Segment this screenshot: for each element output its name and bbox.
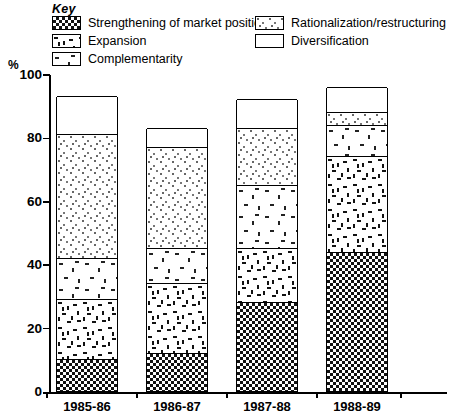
bar-segment-1986-87-rationalization-restructuring — [147, 147, 207, 248]
bar-1987-88 — [236, 100, 298, 392]
bar-segment-1988-89-diversification — [327, 87, 387, 112]
bar-segment-1986-87-expansion — [147, 283, 207, 353]
x-category-label-1985-86: 1985-86 — [63, 399, 111, 414]
bar-1985-86 — [56, 97, 118, 392]
bar-segment-1986-87-diversification — [147, 128, 207, 147]
bar-segment-1987-88-rationalization-restructuring — [237, 128, 297, 185]
bar-segment-1987-88-strengthening-of-market-position — [237, 302, 297, 391]
x-category-label-1988-89: 1988-89 — [333, 399, 381, 414]
bar-1988-89 — [326, 88, 388, 392]
x-tick-mark-1 — [136, 392, 138, 398]
y-tick-label-20: 20 — [8, 321, 42, 336]
y-tick-mark-80 — [43, 138, 50, 140]
bar-segment-1987-88-complementarity — [237, 185, 297, 248]
y-tick-label-60: 60 — [8, 194, 42, 209]
bar-segment-1985-86-expansion — [57, 299, 117, 359]
x-tick-mark-end — [400, 392, 402, 398]
bar-segment-1985-86-diversification — [57, 96, 117, 134]
y-tick-mark-20 — [43, 328, 50, 330]
x-tick-mark-3 — [316, 392, 318, 398]
bar-segment-1988-89-expansion — [327, 156, 387, 251]
y-tick-label-100: 100 — [8, 67, 42, 82]
y-tick-mark-40 — [43, 264, 50, 266]
stacked-bar-chart: % 020406080100 1985-861986-871987-881988… — [0, 0, 449, 418]
bar-segment-1986-87-complementarity — [147, 248, 207, 283]
x-tick-mark-2 — [226, 392, 228, 398]
bar-segment-1986-87-strengthening-of-market-position — [147, 353, 207, 391]
bar-segment-1985-86-rationalization-restructuring — [57, 134, 117, 258]
y-tick-label-0: 0 — [8, 384, 42, 399]
bar-1986-87 — [146, 129, 208, 392]
bar-segment-1988-89-rationalization-restructuring — [327, 112, 387, 125]
y-tick-mark-100 — [43, 74, 50, 76]
y-axis-labels: 020406080100 — [4, 0, 42, 418]
y-tick-mark-60 — [43, 201, 50, 203]
bar-segment-1985-86-complementarity — [57, 258, 117, 299]
x-category-label-1986-87: 1986-87 — [153, 399, 201, 414]
bar-segment-1985-86-strengthening-of-market-position — [57, 359, 117, 391]
x-axis-line — [43, 392, 447, 394]
bar-segment-1987-88-diversification — [237, 99, 297, 128]
y-tick-label-80: 80 — [8, 130, 42, 145]
x-tick-mark-0 — [46, 392, 48, 398]
y-axis-line — [49, 75, 51, 393]
x-category-label-1987-88: 1987-88 — [243, 399, 291, 414]
y-tick-label-40: 40 — [8, 257, 42, 272]
bar-segment-1987-88-expansion — [237, 248, 297, 302]
bar-segment-1988-89-complementarity — [327, 125, 387, 157]
bar-segment-1988-89-strengthening-of-market-position — [327, 252, 387, 391]
